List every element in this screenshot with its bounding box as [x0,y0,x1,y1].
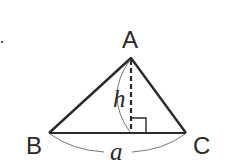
vertex-label-a: A [122,28,138,52]
stray-dot [1,41,3,43]
base-arc-left [50,134,104,152]
height-label: h [113,86,126,111]
right-angle-marker [132,118,146,133]
triangle-diagram: A B C h a [0,0,230,168]
base-arc-right [132,134,185,152]
vertex-label-b: B [26,134,42,158]
base-label: a [110,139,123,164]
vertex-label-c: C [193,134,210,158]
